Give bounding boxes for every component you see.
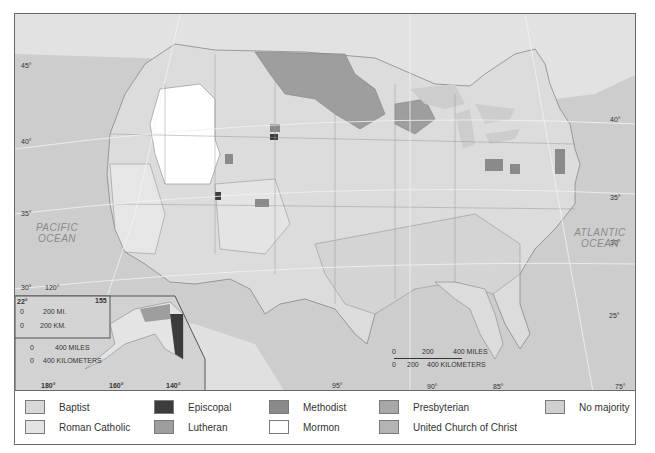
hawaii-lon-label: 155	[95, 297, 107, 304]
presbyterian-swatch	[379, 400, 399, 414]
legend-item-lutheran: Lutheran	[154, 419, 227, 435]
legend-item-roman-catholic: Roman Catholic	[25, 419, 130, 435]
lat-label-east-35: 35°	[610, 194, 621, 201]
pacific-ocean-label: PACIFIC OCEAN	[27, 222, 87, 244]
scale-bar: 0 200 400 MILES 0 200 400 KILOMETERS	[390, 348, 500, 378]
lon-label-120: 120°	[45, 284, 59, 291]
lon-label-75: 75°	[615, 383, 626, 390]
atlantic-ocean-label: ATLANTIC OCEAN	[570, 227, 630, 249]
alaska-lon-140: 140°	[166, 382, 180, 389]
legend: Baptist Roman Catholic Episcopal Luthera…	[14, 391, 636, 445]
legend-item-methodist: Methodist	[269, 399, 346, 415]
legend-item-baptist: Baptist	[25, 399, 90, 415]
lat-label-east-25: 25°	[609, 312, 620, 319]
lon-label-90: 90°	[427, 383, 438, 390]
roman-catholic-swatch	[25, 420, 45, 434]
lat-label-45: 45°	[21, 62, 32, 69]
legend-item-united-church-of-christ: United Church of Christ	[379, 419, 517, 435]
lat-label-east-40: 40°	[610, 116, 621, 123]
ucc-swatch	[379, 420, 399, 434]
legend-item-no-majority: No majority	[545, 399, 630, 415]
lat-label-30: 30°	[21, 284, 32, 291]
map-frame: 45° 40° 35° 30° 120° 40° 35° 30° 25° 95°…	[14, 13, 636, 391]
baptist-swatch	[25, 400, 45, 414]
alaska-lon-180: 180°	[41, 382, 55, 389]
mormon-swatch	[269, 420, 289, 434]
methodist-swatch	[269, 400, 289, 414]
lon-label-85: 85°	[493, 383, 504, 390]
lon-label-95: 95°	[332, 382, 343, 389]
lutheran-swatch	[154, 420, 174, 434]
lat-label-35: 35°	[21, 210, 32, 217]
legend-item-episcopal: Episcopal	[154, 399, 231, 415]
legend-item-presbyterian: Presbyterian	[379, 399, 469, 415]
alaska-lon-160: 160°	[109, 382, 123, 389]
us-map	[15, 14, 636, 391]
legend-item-mormon: Mormon	[269, 419, 340, 435]
hawaii-lat-label: 22°	[17, 298, 28, 305]
episcopal-swatch	[154, 400, 174, 414]
lat-label-40: 40°	[21, 138, 32, 145]
no-majority-swatch	[545, 400, 565, 414]
